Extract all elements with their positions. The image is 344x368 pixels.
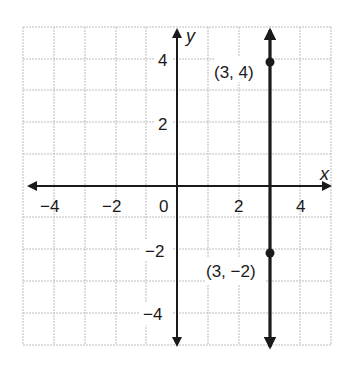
y-tick-neg2: −2 [145,242,164,261]
x-axis-label: x [319,164,330,184]
x-tick-neg4: −4 [40,197,59,216]
y-tick-pos2: 2 [158,115,167,134]
coordinate-plane: y x −4 −2 0 2 4 4 2 −2 −4 (3, 4) (3, −2) [0,0,344,368]
point-label-3-neg2: (3, −2) [206,262,256,281]
x-tick-neg2: −2 [102,197,121,216]
y-tick-neg4: −4 [143,305,162,324]
point-3-4 [266,58,275,67]
point-label-3-4: (3, 4) [214,63,254,82]
x-tick-zero: 0 [159,197,168,216]
point-3-neg2 [266,249,275,258]
x-tick-pos4: 4 [296,197,305,216]
x-tick-pos2: 2 [234,197,243,216]
y-axis-label: y [184,26,196,46]
y-tick-pos4: 4 [158,51,167,70]
